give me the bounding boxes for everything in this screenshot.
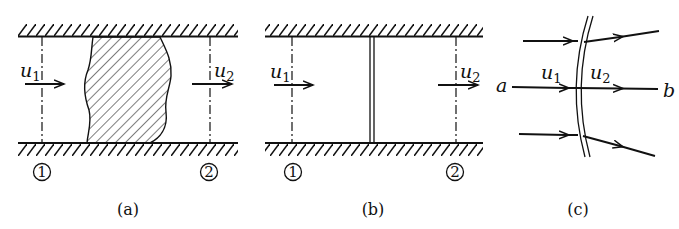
caption-c: (c) [567, 200, 588, 219]
downstream-velocity-label: u2 [590, 61, 611, 86]
streamline-bottom-upstream [519, 134, 578, 135]
svg-text:2: 2 [204, 163, 214, 181]
outlet-velocity-label: u2 [460, 60, 481, 85]
svg-text:1: 1 [37, 163, 47, 181]
streamline-top-downstream [584, 31, 659, 42]
svg-text:1: 1 [288, 163, 298, 181]
streamline-bottom-downstream [583, 136, 655, 156]
bottom-wall-hatch [265, 144, 483, 156]
panel-b: u1 u2 1 2 (b) [265, 24, 483, 219]
top-wall-hatch [18, 24, 238, 36]
section-1-marker: 1 [285, 163, 302, 181]
section-2-marker: 2 [447, 163, 464, 181]
figure: u1 u2 1 2 (a) u1 u2 1 2 [0, 0, 679, 229]
point-a-label: a [496, 74, 507, 96]
panel-c: a b u1 u2 (c) [496, 16, 675, 219]
curved-shock-right [581, 16, 593, 157]
panel-a: u1 u2 1 2 (a) [18, 24, 238, 219]
streamline-mid-upstream [512, 87, 577, 88]
top-wall-hatch [265, 24, 483, 36]
shaded-region [85, 37, 171, 143]
caption-b: (b) [362, 200, 385, 219]
section-1-marker: 1 [34, 163, 51, 181]
streamline-mid-downstream [577, 88, 658, 89]
section-2-marker: 2 [201, 163, 218, 181]
inlet-velocity-label: u1 [20, 59, 41, 84]
upstream-velocity-label: u1 [541, 61, 562, 86]
outlet-velocity-label: u2 [214, 59, 235, 84]
point-b-label: b [663, 79, 675, 101]
bottom-wall-hatch [18, 144, 238, 156]
inlet-velocity-label: u1 [270, 60, 291, 85]
svg-text:2: 2 [450, 163, 460, 181]
caption-a: (a) [117, 200, 139, 219]
